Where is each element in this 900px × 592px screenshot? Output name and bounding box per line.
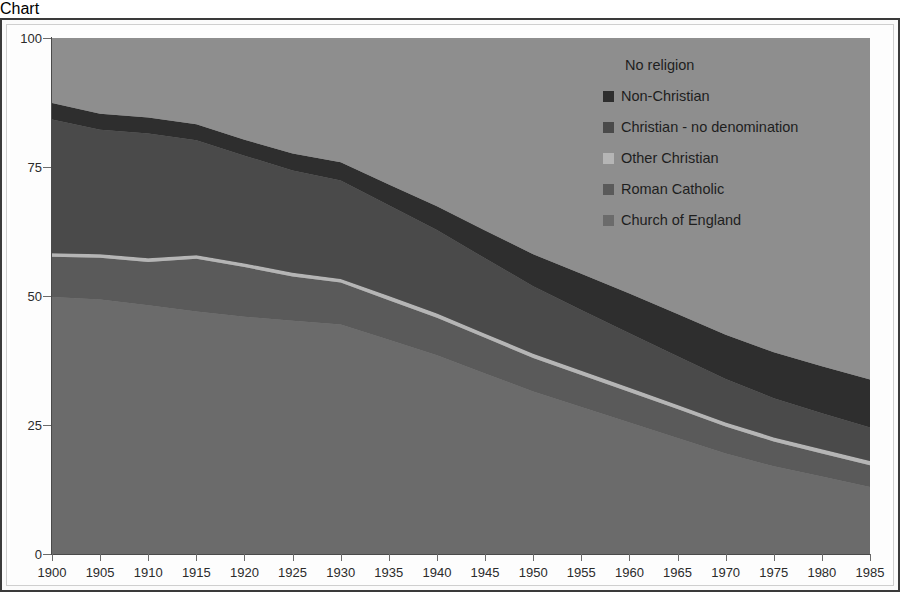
x-tick bbox=[148, 554, 149, 561]
legend-swatch-icon bbox=[603, 91, 614, 102]
legend-swatch-icon bbox=[603, 215, 614, 226]
chart-figure: 0255075100 19001905191019151920192519301… bbox=[0, 18, 900, 592]
legend-item-other-christian[interactable]: Other Christian bbox=[603, 143, 798, 174]
chart-legend: No religionNon-ChristianChristian - no d… bbox=[603, 50, 798, 236]
legend-label: No religion bbox=[625, 58, 694, 73]
legend-item-roman-catholic[interactable]: Roman Catholic bbox=[603, 174, 798, 205]
x-axis-line bbox=[51, 554, 871, 555]
y-tick bbox=[43, 38, 51, 39]
x-tick bbox=[100, 554, 101, 561]
legend-swatch-icon bbox=[603, 184, 614, 195]
x-tick bbox=[244, 554, 245, 561]
y-tick-label: 100 bbox=[2, 31, 42, 46]
y-tick bbox=[43, 425, 51, 426]
x-tick bbox=[726, 554, 727, 561]
legend-item-christian-no-denomination[interactable]: Christian - no denomination bbox=[603, 112, 798, 143]
legend-label: Non-Christian bbox=[621, 89, 710, 104]
y-tick bbox=[43, 296, 51, 297]
legend-item-non-christian[interactable]: Non-Christian bbox=[603, 81, 798, 112]
legend-item-no-religion[interactable]: No religion bbox=[603, 50, 798, 81]
x-tick bbox=[533, 554, 534, 561]
legend-swatch-icon bbox=[603, 153, 614, 164]
x-tick bbox=[341, 554, 342, 561]
x-tick bbox=[870, 554, 871, 561]
y-tick bbox=[43, 554, 51, 555]
x-tick bbox=[485, 554, 486, 561]
x-tick bbox=[581, 554, 582, 561]
legend-item-church-of-england[interactable]: Church of England bbox=[603, 205, 798, 236]
legend-label: Christian - no denomination bbox=[621, 120, 798, 135]
legend-label: Other Christian bbox=[621, 151, 719, 166]
x-tick bbox=[196, 554, 197, 561]
x-tick bbox=[678, 554, 679, 561]
x-tick bbox=[629, 554, 630, 561]
y-axis-line bbox=[51, 37, 52, 555]
x-tick bbox=[389, 554, 390, 561]
x-tick bbox=[52, 554, 53, 561]
x-tick-label: 1985 bbox=[840, 565, 900, 580]
y-tick-label: 50 bbox=[2, 289, 42, 304]
y-tick-label: 25 bbox=[2, 418, 42, 433]
legend-swatch-icon bbox=[603, 122, 614, 133]
y-tick-label: 0 bbox=[2, 547, 42, 562]
x-tick bbox=[293, 554, 294, 561]
y-tick-label: 75 bbox=[2, 160, 42, 175]
legend-label: Church of England bbox=[621, 213, 741, 228]
y-tick bbox=[43, 167, 51, 168]
x-tick bbox=[822, 554, 823, 561]
x-tick bbox=[437, 554, 438, 561]
legend-label: Roman Catholic bbox=[621, 182, 724, 197]
x-tick bbox=[774, 554, 775, 561]
